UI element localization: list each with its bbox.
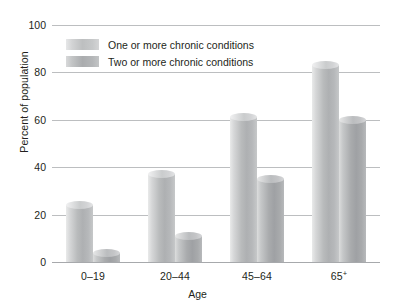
x-axis-title: Age xyxy=(0,288,395,300)
bar xyxy=(339,120,366,262)
legend-label: Two or more chronic conditions xyxy=(108,56,253,68)
bar-group xyxy=(312,25,366,262)
y-axis-tick-label: 0 xyxy=(40,257,46,268)
y-axis-title: Percent of population xyxy=(18,32,30,172)
y-axis-tick-label: 60 xyxy=(34,115,46,126)
chart-container: Percent of population 020406080100 0–192… xyxy=(0,0,395,301)
y-axis-tick-label: 40 xyxy=(34,162,46,173)
chart-legend: One or more chronic conditionsTwo or mor… xyxy=(66,37,254,71)
bar xyxy=(175,236,202,262)
x-axis-tick-label: 20–44 xyxy=(160,270,190,282)
x-axis-tick-label: 65+ xyxy=(331,270,348,282)
legend-label: One or more chronic conditions xyxy=(108,39,254,51)
legend-item: One or more chronic conditions xyxy=(66,37,254,52)
bar xyxy=(66,205,93,262)
bar xyxy=(257,179,284,262)
gridline: 0 xyxy=(52,262,380,263)
legend-item: Two or more chronic conditions xyxy=(66,54,254,69)
bar xyxy=(312,65,339,262)
legend-swatch xyxy=(66,56,99,67)
y-axis-tick-label: 20 xyxy=(34,209,46,220)
y-axis-tick-label: 100 xyxy=(28,20,46,31)
bar xyxy=(230,117,257,262)
x-axis-tick-label: 0–19 xyxy=(81,270,105,282)
x-axis-tick-label: 45–64 xyxy=(242,270,272,282)
legend-swatch xyxy=(66,39,99,50)
y-axis-tick-label: 80 xyxy=(34,67,46,78)
bar xyxy=(148,174,175,262)
bar xyxy=(93,253,120,262)
